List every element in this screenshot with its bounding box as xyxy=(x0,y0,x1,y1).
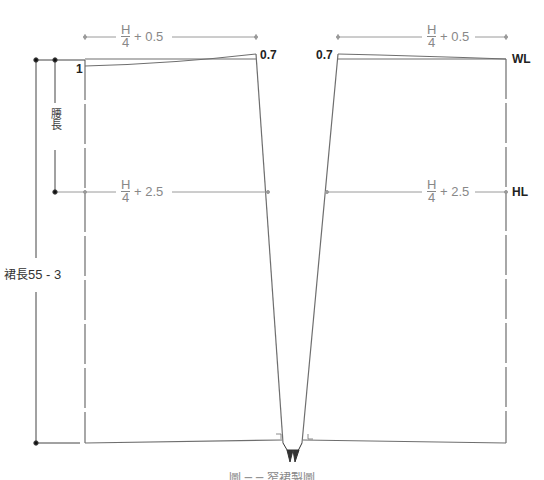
back-panel-guides xyxy=(55,34,270,194)
hem-line xyxy=(85,440,282,443)
arrow-down-icon xyxy=(293,450,299,462)
back-panel xyxy=(85,54,283,443)
front-waist-rise: 0.7 xyxy=(316,48,333,62)
front-waist-formula: H 4 + 0.5 xyxy=(427,24,469,49)
figure-caption: 圖 ─ ─ 窄裙製圖 xyxy=(0,472,544,480)
front-panel xyxy=(302,54,506,443)
waist-curve xyxy=(85,54,256,66)
front-hip-formula: H 4 + 2.5 xyxy=(427,179,469,204)
back-waist-drop: 1 xyxy=(76,62,83,76)
hip-line-label: HL xyxy=(512,185,528,199)
back-hip-formula: H 4 + 2.5 xyxy=(121,179,163,204)
hip-depth-label: 腰長 xyxy=(48,108,62,130)
grainline-arrows xyxy=(283,443,302,462)
back-waist-rise: 0.7 xyxy=(260,48,277,62)
back-waist-formula: H 4 + 0.5 xyxy=(121,24,163,49)
skirt-length-label: 裙長55 - 3 xyxy=(4,265,61,282)
waist-line-label: WL xyxy=(512,52,531,66)
arrow-down-icon xyxy=(287,450,293,462)
side-seam xyxy=(256,54,283,443)
